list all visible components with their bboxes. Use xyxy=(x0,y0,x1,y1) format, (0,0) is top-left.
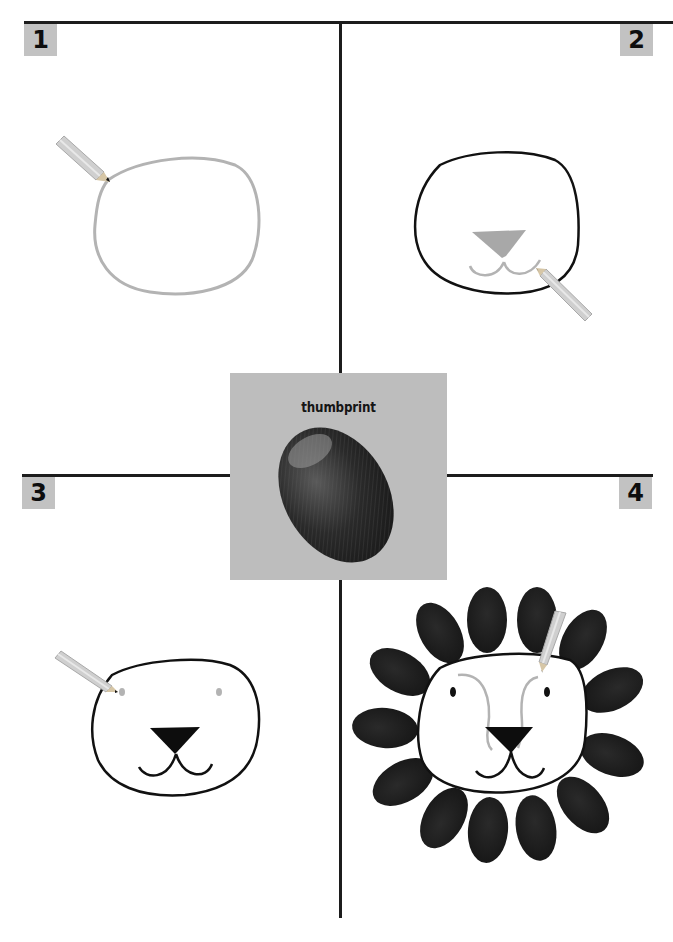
eye-right xyxy=(544,687,550,697)
step-4-illustration xyxy=(0,0,673,942)
eye-left xyxy=(450,687,456,697)
